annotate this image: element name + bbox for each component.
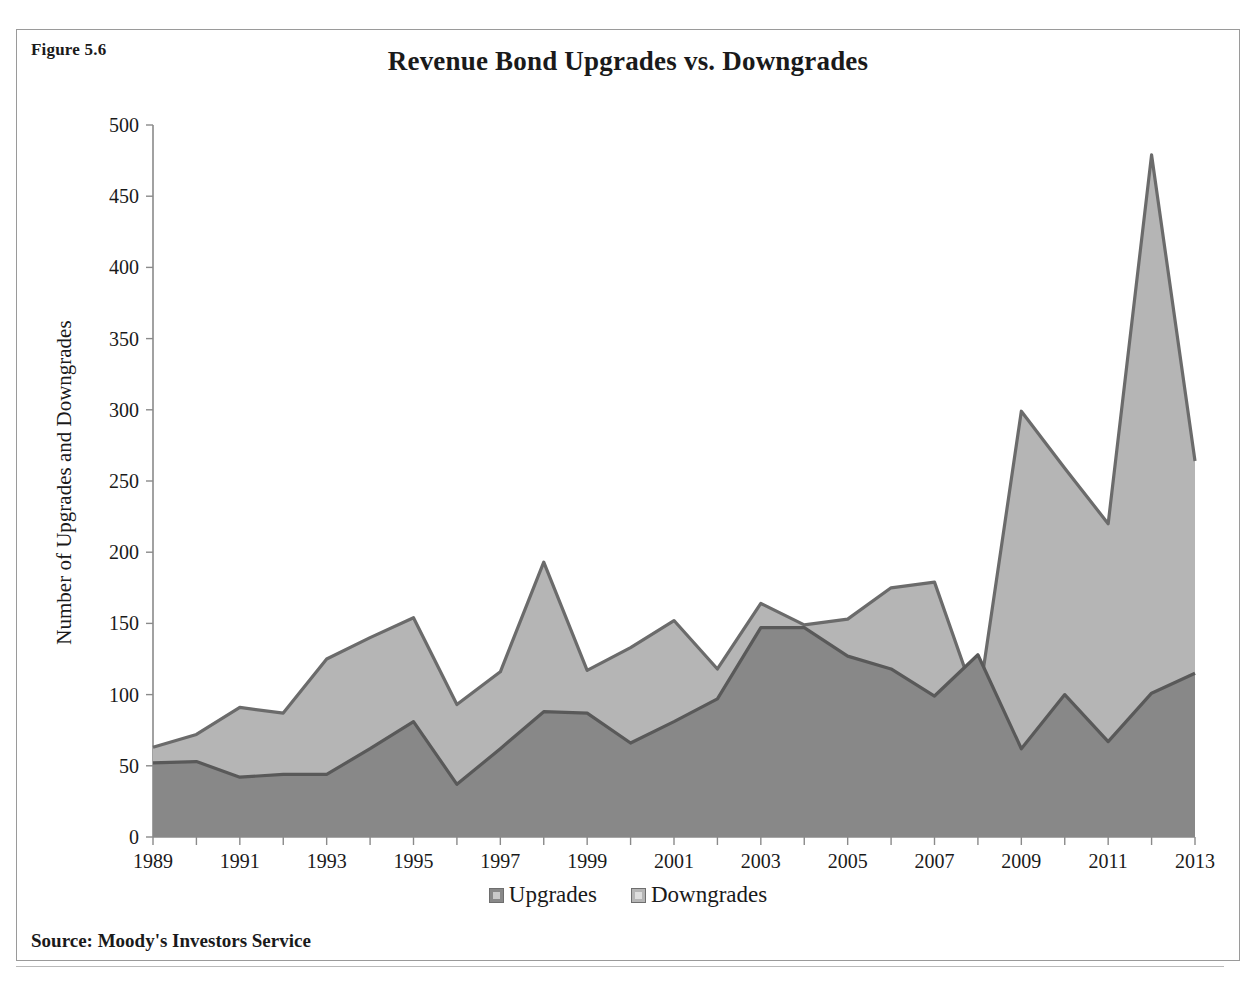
x-tick-label: 2007 [900,851,970,871]
x-tick-label: 1997 [465,851,535,871]
legend-label: Upgrades [509,882,597,908]
x-tick-label: 2009 [986,851,1056,871]
x-tick-label: 2005 [813,851,883,871]
y-tick-label: 0 [81,827,139,847]
x-tick-label: 1995 [379,851,449,871]
x-tick-label: 1991 [205,851,275,871]
y-tick-label: 400 [81,257,139,277]
chart-plot-area: 050100150200250300350400450500 198919911… [17,30,1241,962]
x-tick-label: 2011 [1073,851,1143,871]
y-tick-label: 350 [81,329,139,349]
x-tick-label: 2013 [1160,851,1230,871]
y-tick-label: 300 [81,400,139,420]
x-tick-label: 1999 [552,851,622,871]
legend-label: Downgrades [651,882,767,908]
y-tick-label: 150 [81,613,139,633]
figure-card: Figure 5.6 Revenue Bond Upgrades vs. Dow… [16,29,1240,961]
y-tick-label: 100 [81,685,139,705]
legend-entry[interactable]: Upgrades [489,882,597,908]
x-tick-label: 1989 [118,851,188,871]
area-chart-svg [17,30,1241,962]
y-tick-label: 50 [81,756,139,776]
source-note: Source: Moody's Investors Service [31,930,311,952]
legend-swatch-icon [631,888,646,903]
legend-swatch-icon [489,888,504,903]
y-tick-label: 200 [81,542,139,562]
y-tick-label: 450 [81,186,139,206]
y-tick-label: 500 [81,115,139,135]
chart-legend: UpgradesDowngrades [17,882,1239,908]
page-rule-divider [16,966,1224,967]
x-tick-label: 2003 [726,851,796,871]
series-group [153,155,1195,837]
x-tick-label: 2001 [639,851,709,871]
y-tick-label: 250 [81,471,139,491]
legend-entry[interactable]: Downgrades [631,882,767,908]
x-tick-label: 1993 [292,851,362,871]
